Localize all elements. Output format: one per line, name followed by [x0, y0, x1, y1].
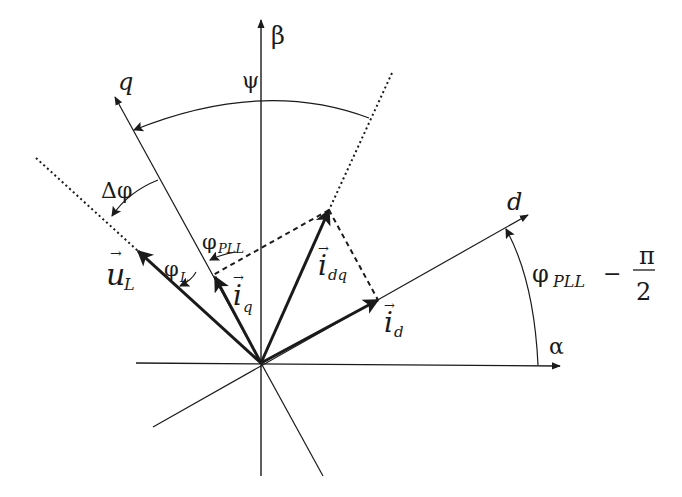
- svg-text:i: i: [233, 279, 242, 312]
- dotted-line-upper: [329, 73, 392, 210]
- delta-phi-label: Δφ: [101, 178, 132, 203]
- svg-text:u: u: [106, 257, 125, 292]
- i-dq-label: → i dq: [318, 241, 347, 284]
- svg-text:PLL: PLL: [552, 272, 585, 291]
- svg-text:L: L: [123, 275, 135, 294]
- dotted-line-left: [36, 158, 138, 251]
- vector-diagram: β q d α ψ Δφ φ PLL φ L φ PLL − π 2 → u L…: [0, 0, 682, 497]
- d-label: d: [507, 188, 522, 216]
- q-label: q: [118, 68, 133, 96]
- svg-text:φ: φ: [532, 260, 549, 288]
- psi-label: ψ: [242, 68, 259, 93]
- dashed-projection-d: [329, 210, 378, 300]
- svg-text:i: i: [384, 306, 393, 339]
- svg-text:dq: dq: [328, 266, 347, 284]
- psi-arc: [134, 101, 369, 130]
- vector-i-d: [261, 300, 378, 363]
- alpha-axis: [136, 363, 560, 366]
- svg-text:L: L: [179, 270, 189, 285]
- phi-pll-label: φ PLL: [202, 230, 244, 256]
- phi-l-label: φ L: [164, 257, 189, 285]
- svg-text:q: q: [243, 298, 253, 316]
- u-l-label: → u L: [106, 245, 135, 294]
- beta-label: β: [271, 22, 285, 50]
- svg-text:−: −: [603, 261, 621, 286]
- diagram-canvas: β q d α ψ Δφ φ PLL φ L φ PLL − π 2 → u L…: [0, 0, 682, 497]
- phi-pll-minus-arc: [506, 229, 538, 365]
- svg-text:i: i: [318, 249, 327, 282]
- svg-text:π: π: [639, 242, 655, 270]
- svg-text:PLL: PLL: [217, 241, 244, 256]
- svg-text:φ: φ: [164, 257, 179, 281]
- vector-i-dq: [261, 210, 329, 363]
- svg-text:d: d: [394, 323, 404, 341]
- i-q-label: → i q: [233, 270, 253, 316]
- phi-pll-minus-half-pi-label: φ PLL − π 2: [532, 242, 655, 306]
- svg-text:2: 2: [636, 278, 651, 306]
- i-d-label: → i d: [384, 298, 404, 341]
- svg-text:φ: φ: [202, 230, 217, 254]
- alpha-label: α: [549, 334, 564, 359]
